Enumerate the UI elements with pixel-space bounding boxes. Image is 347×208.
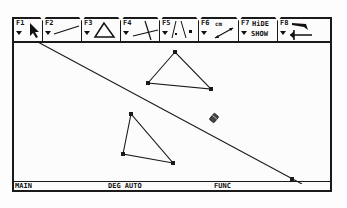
tool-f1-pointer[interactable]: F1 — [14, 19, 43, 41]
tool-f8-erase[interactable]: F8 — [278, 19, 330, 41]
tool-f7-hide-show[interactable]: F7 HiDE SHOW — [239, 19, 278, 41]
vertex-point[interactable] — [121, 152, 125, 156]
status-folder: MAIN — [15, 182, 32, 190]
vertex-point[interactable] — [146, 81, 150, 85]
geometry-drawing — [14, 41, 330, 184]
tool-f2-line[interactable]: F2 — [43, 19, 82, 41]
tool-f3-polygon[interactable]: F3 — [82, 19, 121, 41]
calculator-screen: F1 F2 F3 F4 F5 — [12, 17, 332, 192]
tool-f6-measure[interactable]: F6 cm — [199, 19, 239, 41]
dropdown-arrow-icon — [241, 31, 247, 35]
fkey-label: F7 — [241, 19, 249, 28]
measure-icon — [199, 19, 239, 41]
upper-triangle[interactable] — [148, 52, 211, 89]
vertex-point[interactable] — [171, 161, 175, 165]
status-angle-mode: DEG AUTO — [108, 182, 142, 190]
triangle-icon — [82, 19, 121, 41]
vertex-point[interactable] — [209, 87, 213, 91]
eraser-cursor-icon — [209, 113, 219, 123]
intersecting-lines-icon — [121, 19, 160, 41]
status-bar: MAIN DEG AUTO FUNC — [14, 181, 330, 190]
show-label: SHOW — [251, 30, 268, 38]
status-graph-mode: FUNC — [214, 182, 231, 190]
line-segment-icon — [43, 19, 82, 41]
pointer-arrow-icon — [14, 19, 43, 41]
hide-label: HiDE — [252, 20, 269, 28]
tool-f5-transform[interactable]: F5 — [160, 19, 199, 41]
points-icon — [160, 19, 199, 41]
tool-f4-construct[interactable]: F4 — [121, 19, 160, 41]
lower-triangle[interactable] — [123, 114, 173, 163]
geometry-canvas[interactable] — [14, 41, 330, 184]
eraser-arrow-icon — [278, 19, 330, 41]
vertex-point[interactable] — [129, 112, 133, 116]
toolbar: F1 F2 F3 F4 F5 — [14, 19, 330, 43]
vertex-point[interactable] — [173, 50, 177, 54]
